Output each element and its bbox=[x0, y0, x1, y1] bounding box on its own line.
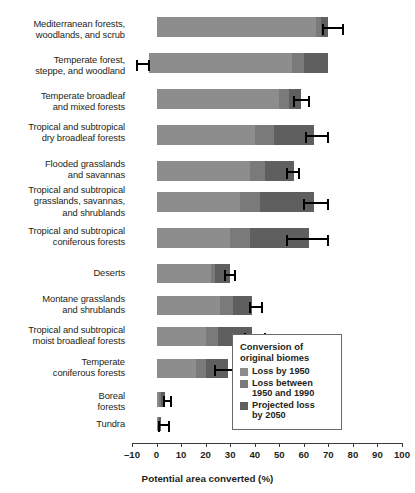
legend-label: Loss by 1950 bbox=[252, 366, 310, 377]
error-bar-cap-high bbox=[261, 302, 263, 313]
bar-segment bbox=[157, 192, 240, 212]
error-bar-cap-high bbox=[327, 235, 329, 246]
x-tick-label: 0 bbox=[154, 449, 159, 460]
error-bar-cap-high bbox=[327, 132, 329, 143]
x-tick bbox=[279, 443, 280, 447]
x-tick bbox=[206, 443, 207, 447]
x-tick bbox=[353, 443, 354, 447]
error-bar-cap-high bbox=[298, 168, 300, 179]
bar-segment bbox=[304, 53, 329, 73]
error-bar-cap-low bbox=[303, 199, 305, 210]
error-bar bbox=[225, 274, 235, 276]
x-tick-label: 40 bbox=[249, 449, 260, 460]
x-tick bbox=[377, 443, 378, 447]
bar-segment bbox=[255, 125, 275, 145]
bar-segment bbox=[157, 89, 280, 109]
x-tick bbox=[181, 443, 182, 447]
x-tick-label: 30 bbox=[225, 449, 236, 460]
legend-swatch bbox=[240, 380, 248, 388]
error-bar-cap-high bbox=[327, 199, 329, 210]
x-tick bbox=[328, 443, 329, 447]
legend-label: Projected loss by 2050 bbox=[252, 400, 315, 421]
x-tick-label: 80 bbox=[348, 449, 359, 460]
category-label: Tropical and subtropical coniferous fore… bbox=[0, 225, 125, 248]
category-label: Temperate coniferous forests bbox=[0, 356, 125, 379]
bar-segment bbox=[157, 264, 211, 283]
x-tick-label: 50 bbox=[274, 449, 285, 460]
bar-segment bbox=[279, 89, 289, 109]
bar bbox=[157, 264, 231, 283]
legend-item: Projected loss by 2050 bbox=[240, 400, 335, 421]
error-bar-cap-low bbox=[305, 132, 307, 143]
x-tick-label: 20 bbox=[200, 449, 211, 460]
legend-label: Loss between 1950 and 1990 bbox=[252, 378, 314, 399]
bar-segment bbox=[157, 125, 255, 145]
error-bar bbox=[294, 99, 309, 101]
bar-segment bbox=[157, 228, 231, 248]
x-tick bbox=[402, 443, 403, 447]
bar-segment bbox=[240, 192, 260, 212]
legend-title: Conversion of original biomes bbox=[240, 341, 335, 363]
category-label: Tropical and subtropical moist broadleaf… bbox=[0, 324, 125, 347]
bar-chart: Mediterranean forests, woodlands, and sc… bbox=[0, 0, 415, 493]
bar bbox=[157, 17, 329, 37]
error-bar-cap-low bbox=[136, 60, 138, 71]
x-tick-label: –10 bbox=[124, 449, 140, 460]
category-label: Montane grasslands and shrublands bbox=[0, 293, 125, 316]
x-tick bbox=[255, 443, 256, 447]
x-tick bbox=[304, 443, 305, 447]
x-axis-line bbox=[132, 443, 403, 444]
legend-item: Loss between 1950 and 1990 bbox=[240, 378, 335, 399]
error-bar bbox=[323, 27, 343, 29]
bar-segment bbox=[196, 359, 206, 378]
bar bbox=[157, 161, 294, 181]
bar bbox=[157, 125, 314, 145]
error-bar-cap-high bbox=[168, 421, 170, 432]
legend-swatch bbox=[240, 402, 248, 410]
category-label: Temperate forest, steppe, and woodland bbox=[0, 54, 125, 77]
legend-item: Loss by 1950 bbox=[240, 366, 335, 377]
error-bar-cap-low bbox=[286, 235, 288, 246]
bar-segment bbox=[220, 296, 232, 315]
bar-segment bbox=[157, 327, 206, 346]
category-label: Tundra bbox=[0, 418, 125, 429]
error-bar-cap-high bbox=[342, 24, 344, 35]
error-bar bbox=[306, 135, 328, 137]
bar-segment bbox=[250, 161, 265, 181]
category-label: Flooded grasslands and savannas bbox=[0, 158, 125, 181]
x-tick bbox=[157, 443, 158, 447]
bar-segment bbox=[157, 161, 250, 181]
x-tick-label: 90 bbox=[372, 449, 383, 460]
error-bar-cap-high bbox=[308, 96, 310, 107]
bar-segment bbox=[230, 228, 250, 248]
category-label: Temperate broadleaf and mixed forests bbox=[0, 90, 125, 113]
x-tick-label: 10 bbox=[176, 449, 187, 460]
x-tick-label: 100 bbox=[394, 449, 410, 460]
category-label: Mediterranean forests, woodlands, and sc… bbox=[0, 18, 125, 41]
bar-segment bbox=[292, 53, 304, 73]
bar bbox=[157, 296, 253, 315]
category-label: Tropical and subtropical grasslands, sav… bbox=[0, 184, 125, 218]
x-tick bbox=[230, 443, 231, 447]
error-bar bbox=[287, 238, 329, 240]
error-bar bbox=[164, 400, 171, 402]
bar-segment bbox=[157, 359, 196, 378]
error-bar-cap-low bbox=[163, 396, 165, 407]
x-tick bbox=[132, 443, 133, 447]
legend-items-host: Loss by 1950Loss between 1950 and 1990Pr… bbox=[240, 366, 335, 421]
bar-segment bbox=[149, 53, 291, 73]
error-bar-cap-low bbox=[322, 24, 324, 35]
error-bar-cap-low bbox=[158, 421, 160, 432]
error-bar-cap-high bbox=[170, 396, 172, 407]
bar-segment bbox=[157, 17, 317, 37]
bar bbox=[149, 53, 328, 73]
category-label: Boreal forests bbox=[0, 390, 125, 413]
error-bar bbox=[304, 202, 329, 204]
error-bar-cap-high bbox=[234, 270, 236, 281]
error-bar bbox=[250, 306, 262, 308]
legend: Conversion of original biomes Loss by 19… bbox=[232, 334, 342, 430]
x-tick-label: 60 bbox=[298, 449, 309, 460]
category-label: Deserts bbox=[0, 267, 125, 278]
error-bar bbox=[287, 171, 299, 173]
bar-segment bbox=[206, 327, 218, 346]
